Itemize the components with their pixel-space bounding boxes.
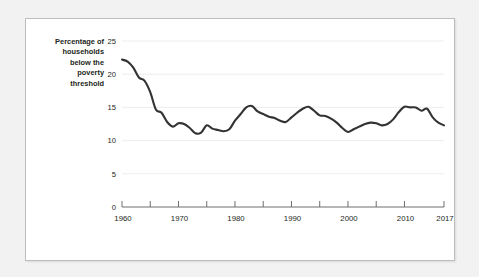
xtick-label-2000: 2000 — [340, 214, 358, 223]
x-axis-tick-labels: 1960 1970 1980 1990 2000 2010 2017 — [114, 214, 453, 223]
data-series-line — [122, 60, 444, 134]
ytick-label-5: 5 — [112, 170, 116, 179]
xtick-label-2017: 2017 — [436, 214, 453, 223]
xtick-label-2010: 2010 — [397, 214, 415, 223]
xtick-label-1970: 1970 — [171, 214, 189, 223]
x-axis-tick-marks — [122, 201, 444, 207]
y-axis-title-line-3: below the — [70, 58, 104, 67]
y-axis-title-line-1: Percentage of — [55, 37, 104, 46]
x-axis — [122, 201, 444, 207]
xtick-label-1990: 1990 — [284, 214, 302, 223]
gridlines — [122, 41, 444, 174]
y-axis-title-line-4: poverty — [77, 68, 105, 77]
poverty-rate-line-chart: 25 20 15 10 5 0 Percentage of households… — [26, 19, 456, 262]
y-axis-tick-labels: 25 20 15 10 5 0 — [108, 37, 116, 212]
ytick-label-10: 10 — [108, 136, 116, 145]
xtick-label-1960: 1960 — [114, 214, 132, 223]
ytick-label-20: 20 — [108, 70, 116, 79]
ytick-label-0: 0 — [112, 203, 116, 212]
y-axis-title-line-5: threshold — [70, 79, 104, 88]
figure-frame: 25 20 15 10 5 0 Percentage of households… — [25, 18, 455, 261]
y-axis-title: Percentage of households below the pover… — [55, 37, 105, 88]
y-axis-title-line-2: households — [63, 47, 104, 56]
ytick-label-25: 25 — [108, 37, 116, 46]
ytick-label-15: 15 — [108, 103, 116, 112]
xtick-label-1980: 1980 — [227, 214, 245, 223]
